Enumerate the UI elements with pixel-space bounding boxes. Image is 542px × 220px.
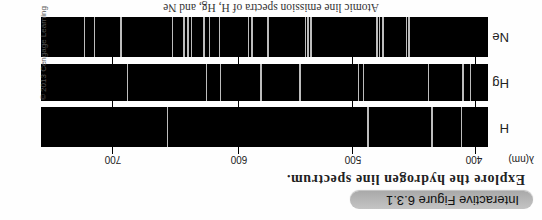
- emission-line: [461, 107, 463, 147]
- emission-line: [408, 17, 410, 57]
- emission-line: [220, 64, 222, 101]
- emission-line: [219, 17, 221, 57]
- axis-tick-label: 500: [345, 154, 362, 165]
- emission-line: [187, 17, 189, 57]
- spectrum-bar-h[interactable]: [41, 107, 488, 147]
- emission-line: [120, 17, 122, 57]
- emission-line: [382, 17, 384, 57]
- figure-stage: Interactive Figure 6.3.1 Explore the hyd…: [0, 0, 542, 220]
- copyright-notice: © 2013 Cengage Learning: [39, 6, 48, 100]
- interactive-figure-badge[interactable]: Interactive Figure 6.3.1: [350, 191, 533, 209]
- axis-tick-mark: [475, 147, 476, 154]
- axis-tick-mark: [238, 147, 239, 154]
- emission-line: [470, 64, 472, 101]
- emission-line: [206, 64, 208, 101]
- emission-line: [172, 17, 174, 57]
- spectrum-label-h: H: [500, 121, 509, 136]
- emission-line: [431, 107, 433, 147]
- axis-tick-label: 600: [231, 154, 248, 165]
- emission-line: [305, 17, 307, 57]
- emission-line: [191, 17, 193, 57]
- spectrum-label-hg: Hg: [492, 76, 509, 91]
- emission-line: [406, 17, 408, 57]
- axis-tick-mark: [238, 101, 239, 107]
- emission-line: [248, 17, 250, 57]
- emission-line: [167, 107, 169, 147]
- spectrum-label-ne: Ne: [492, 30, 509, 45]
- emission-line: [428, 64, 430, 101]
- axis-tick-mark: [112, 101, 113, 107]
- emission-line: [127, 64, 129, 101]
- axis-tick-mark: [475, 101, 476, 107]
- emission-line: [267, 17, 269, 57]
- figure-subtitle: Explore the hydrogen line spectrum.: [286, 171, 525, 187]
- emission-line: [251, 17, 253, 57]
- axis-tick-mark: [112, 57, 113, 64]
- emission-line: [307, 17, 309, 57]
- axis-tick-mark: [352, 57, 353, 64]
- axis-tick-label: 700: [105, 154, 122, 165]
- emission-line: [299, 64, 301, 101]
- emission-line: [84, 17, 86, 57]
- emission-line: [376, 17, 378, 57]
- axis-unit-label: λ(nm): [508, 154, 534, 165]
- axis-tick-mark: [112, 147, 113, 154]
- emission-line: [462, 64, 464, 101]
- emission-line: [368, 107, 370, 147]
- axis-tick-mark: [238, 57, 239, 64]
- axis-tick-mark: [352, 147, 353, 154]
- figure-label: Interactive Figure 6.3.1: [386, 193, 519, 208]
- figure-caption: Atomic line emission spectra of H, Hg, a…: [0, 2, 542, 14]
- emission-line: [209, 17, 211, 57]
- emission-line: [310, 17, 312, 57]
- emission-line: [260, 64, 262, 101]
- emission-line: [94, 17, 96, 57]
- spectrum-bar-ne: [41, 17, 488, 57]
- emission-line: [363, 64, 365, 101]
- emission-line: [183, 17, 185, 57]
- axis-tick-mark: [475, 57, 476, 64]
- spectrum-bar-hg: [41, 64, 488, 101]
- axis-tick-label: 400: [466, 154, 483, 165]
- emission-line: [358, 64, 360, 101]
- emission-line: [203, 17, 205, 57]
- emission-line: [379, 17, 381, 57]
- axis-tick-mark: [352, 101, 353, 107]
